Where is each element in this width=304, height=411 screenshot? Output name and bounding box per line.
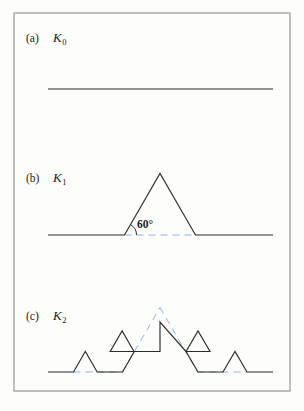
- figure-frame: [14, 13, 290, 391]
- koch-figure-canvas: (a) K0 (b) K1 60° (c) K2: [0, 0, 304, 411]
- panel-b-symbol: K1: [52, 170, 66, 187]
- panel-c-curve: [48, 322, 273, 372]
- panel-c-symbol: K2: [52, 308, 66, 325]
- angle-arc-icon: [131, 225, 137, 235]
- koch-figure-root: (a) K0 (b) K1 60° (c) K2: [0, 0, 304, 411]
- panel-c-group: (c) K2: [26, 308, 273, 373]
- panel-a-group: (a) K0: [26, 30, 273, 89]
- panel-b-group: (b) K1 60°: [26, 170, 273, 235]
- panel-a-symbol: K0: [52, 30, 66, 47]
- panel-a-tag: (a): [26, 32, 39, 45]
- angle-label: 60°: [137, 218, 154, 230]
- panel-b-curve: [48, 174, 273, 236]
- panel-b-tag: (b): [26, 172, 40, 185]
- panel-c-tag: (c): [26, 310, 39, 323]
